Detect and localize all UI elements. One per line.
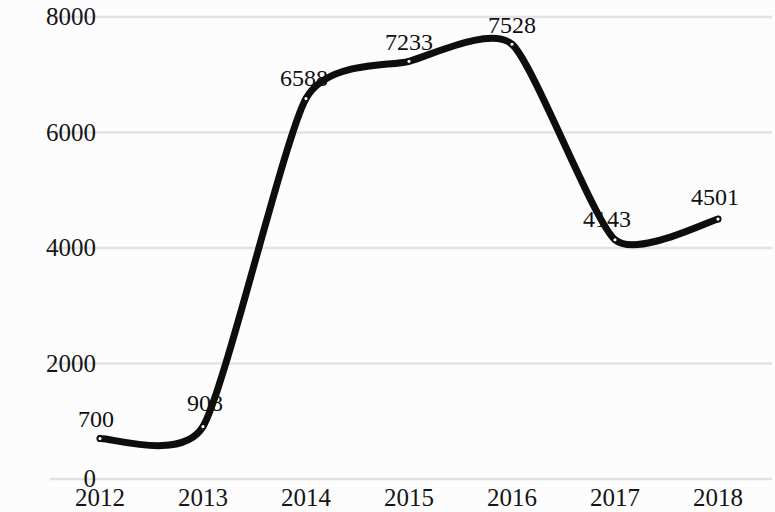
y-axis-tick-label: 6000 (46, 120, 96, 145)
data-value-label: 7233 (385, 30, 433, 54)
x-axis-tick-label: 2018 (693, 485, 743, 510)
x-axis-tick-label: 2013 (178, 485, 228, 510)
data-point-marker (613, 237, 618, 242)
data-point-marker (407, 59, 412, 64)
y-axis-tick-label: 2000 (46, 351, 96, 376)
data-value-label: 908 (187, 391, 223, 415)
y-axis-tick-label: 4000 (46, 235, 96, 260)
data-point-marker (716, 217, 721, 222)
x-axis-tick-label: 2017 (590, 485, 640, 510)
data-value-label: 700 (78, 407, 114, 431)
data-value-label: 4501 (691, 185, 739, 209)
x-axis-tick-label: 2015 (384, 485, 434, 510)
series-line (100, 38, 718, 445)
data-value-label: 4143 (583, 207, 631, 231)
x-axis-tick-label: 2016 (487, 485, 537, 510)
x-axis-tick-label: 2012 (75, 485, 125, 510)
chart-canvas (0, 0, 775, 512)
y-axis-tick-label: 8000 (46, 4, 96, 29)
series-path (100, 38, 718, 445)
data-point-marker (304, 96, 309, 101)
data-value-label: 6588 (280, 66, 328, 90)
gridlines (50, 17, 772, 479)
plot-area: 02000400060008000 2012201320142015201620… (0, 0, 775, 512)
line-chart: 02000400060008000 2012201320142015201620… (0, 0, 775, 512)
data-point-marker (98, 436, 103, 441)
data-point-marker (201, 424, 206, 429)
x-axis-tick-label: 2014 (281, 485, 331, 510)
data-point-marker (510, 42, 515, 47)
data-value-label: 7528 (488, 13, 536, 37)
